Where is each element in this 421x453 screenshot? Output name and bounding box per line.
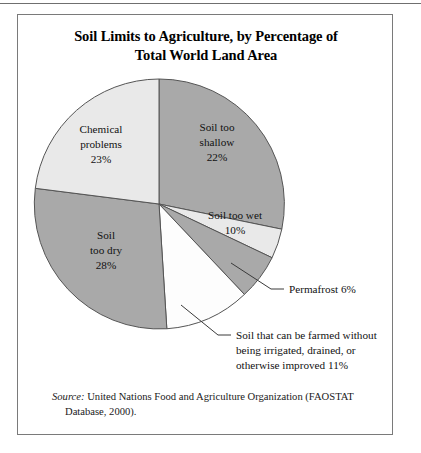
slice-label-soil-too-dry-value: 28% [96,259,117,271]
slice-label-soil-too-wet-line1: Soil too wet [208,209,263,221]
source-label: Source: [52,391,85,402]
slice-label-soil-too-wet-value: 10% [225,224,246,236]
figure-frame: Soil Limits to Agriculture, by Percentag… [17,14,393,435]
callout-soil-farmed-line2: being irrigated, drained, or [236,344,356,356]
slice-label-chemical-problems-line1: Chemical [80,123,123,135]
slice-label-soil-too-dry-line1: Soil [97,229,115,241]
slice-label-soil-too-shallow-value: 22% [207,151,228,163]
pie-chart-svg: Soil too shallow 22% Soil too wet 10% So… [18,15,394,436]
pie-chart: Soil too shallow 22% Soil too wet 10% So… [18,15,394,436]
top-divider-rule [0,3,421,4]
source-line-1: United Nations Food and Agriculture Orga… [85,391,354,402]
callout-label-permafrost: Permafrost 6% [289,283,356,295]
slice-label-soil-too-dry-line2: too dry [90,244,122,256]
slice-label-chemical-problems-value: 23% [91,153,112,165]
slice-label-chemical-problems-line2: problems [80,138,122,150]
callout-soil-farmed-line3: otherwise improved 11% [236,359,348,371]
slice-label-soil-too-shallow-line1: Soil too [199,121,235,133]
source-note: Source: United Nations Food and Agricult… [52,390,372,419]
callout-label-soil-that-can-be-farmed: Soil that can be farmed without being ir… [236,329,378,371]
callout-soil-farmed-line1: Soil that can be farmed without [236,329,378,341]
slice-label-soil-too-shallow-line2: shallow [200,136,236,148]
source-line-2: Database, 2000). [52,405,372,420]
